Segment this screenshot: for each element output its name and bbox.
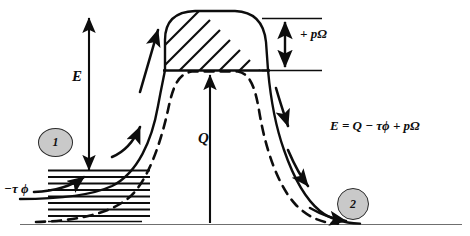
flow-arrows-ascending [34, 30, 158, 192]
diagram-canvas: E Q −τ ϕ + pΩ E = Q − τϕ + pΩ 1 2 [0, 0, 470, 236]
state-badge-1: 1 [38, 128, 73, 157]
label-tau-phi: −τ ϕ [4, 181, 28, 197]
dashed-reference-curve [36, 72, 338, 224]
label-Q: Q [198, 130, 209, 147]
equation-text: E = Q − τϕ + pΩ [330, 118, 420, 134]
state-badge-2: 2 [337, 188, 369, 220]
label-p-omega: + pΩ [300, 26, 327, 42]
label-E: E [72, 68, 82, 85]
